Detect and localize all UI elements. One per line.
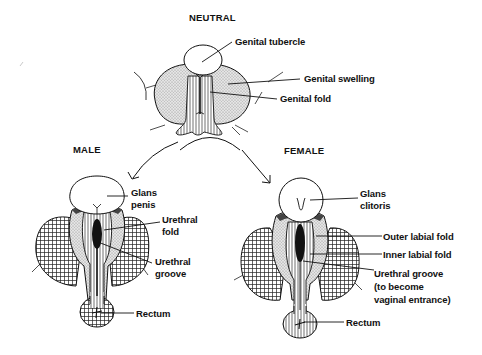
label-rectum-male: Rectum bbox=[136, 308, 170, 319]
label-outer-labial-fold: Outer labial fold bbox=[383, 231, 454, 242]
label-urethral-groove-1: Urethral bbox=[155, 256, 191, 267]
label-glans-clitoris-2: clitoris bbox=[360, 200, 390, 211]
label-urethral-fold-1: Urethral bbox=[162, 214, 198, 225]
label-genital-swelling: Genital swelling bbox=[304, 73, 375, 84]
neutral-heading: NEUTRAL bbox=[189, 12, 236, 23]
female-heading: FEMALE bbox=[284, 145, 324, 156]
label-inner-labial-fold: Inner labial fold bbox=[383, 249, 452, 260]
divergence-arc bbox=[180, 138, 240, 151]
label-urethral-groove-female-2: (to become bbox=[374, 281, 424, 292]
label-glans-penis-2: penis bbox=[131, 199, 155, 210]
stray-mark bbox=[20, 62, 23, 66]
label-urethral-groove-female-1: Urethral groove bbox=[374, 268, 443, 279]
body-outline bbox=[134, 72, 146, 100]
transition-arrows bbox=[128, 138, 270, 184]
label-genital-tubercle: Genital tubercle bbox=[235, 36, 305, 47]
label-urethral-groove-2: groove bbox=[155, 268, 186, 279]
male-heading: MALE bbox=[73, 144, 101, 155]
label-urethral-groove-female-3: vaginal entrance) bbox=[374, 294, 450, 305]
genital-tubercle-shape bbox=[184, 45, 222, 75]
label-glans-clitoris-1: Glans bbox=[360, 188, 386, 199]
arrow-to-female bbox=[242, 150, 270, 183]
label-glans-penis-1: Glans bbox=[131, 187, 157, 198]
arrow-to-male bbox=[133, 142, 178, 178]
label-genital-fold: Genital fold bbox=[280, 93, 331, 104]
urethral-groove-shape bbox=[92, 219, 102, 249]
label-rectum-female: Rectum bbox=[346, 317, 380, 328]
label-urethral-fold-2: fold bbox=[162, 226, 179, 237]
urethral-groove-shape bbox=[295, 224, 305, 262]
neutral-stage-figure bbox=[134, 42, 300, 135]
